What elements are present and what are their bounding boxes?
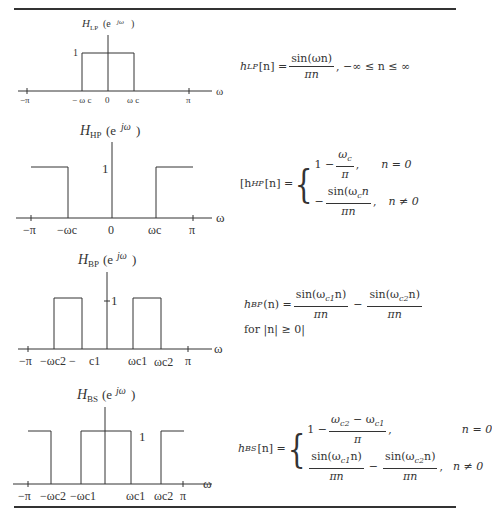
svg-text:(e: (e	[103, 252, 113, 267]
svg-text:−ωc: −ωc	[57, 223, 77, 237]
svg-text:(e: (e	[103, 18, 111, 30]
bandpass-axis-symbol: ω	[214, 341, 223, 356]
svg-text:−π: −π	[19, 354, 32, 368]
svg-text:π: π	[180, 489, 186, 503]
cases: 1 − ωc2 − ωc1π , n = 0 sin(ωc1n)πn − sin…	[307, 413, 492, 483]
highpass-axis-symbol: ω	[216, 210, 225, 225]
bandpass-height-label: 1	[111, 293, 118, 308]
svg-text:LP: LP	[90, 24, 98, 32]
bandstop-response-right	[161, 431, 184, 484]
bandpass-response-left	[54, 298, 82, 349]
svg-text:c1: c1	[89, 354, 100, 368]
cases: 1 − ωcπ , n = 0 − sin(ωcnπn , n ≠ 0	[315, 148, 419, 218]
highpass-height-label: 1	[102, 161, 109, 176]
svg-text:jω: jω	[115, 250, 127, 261]
svg-text:ωc1: ωc1	[126, 489, 145, 503]
svg-text:ωc2: ωc2	[154, 489, 173, 503]
svg-text:BP: BP	[88, 259, 99, 269]
svg-text:π: π	[186, 95, 191, 105]
svg-text:−ωc1: −ωc1	[70, 489, 96, 503]
lowpass-plot	[18, 35, 212, 94]
bandstop-height-label: 1	[139, 429, 146, 444]
bandstop-response-center	[81, 431, 131, 484]
svg-text:π: π	[185, 354, 191, 368]
highpass-response-right	[156, 167, 193, 218]
lowpass-impulse-response: h LP [n] = sin(ωn) πn , −∞ ≤ n ≤ ∞	[240, 52, 410, 81]
bandpass-response-right	[133, 298, 161, 349]
svg-text:ωc1: ωc1	[128, 354, 147, 368]
left-brace: {	[288, 428, 306, 468]
svg-text:ωc: ωc	[148, 223, 161, 237]
svg-text:−π: −π	[20, 95, 30, 105]
bandstop-axis-symbol: ω	[203, 476, 212, 491]
bandstop-response-left	[28, 431, 51, 484]
svg-text:− ω c: − ω c	[72, 95, 92, 105]
svg-text:ωc2: ωc2	[154, 355, 173, 369]
fraction: sin(ωn) πn	[289, 52, 334, 81]
svg-text:(e: (e	[102, 387, 112, 402]
lowpass-axis-symbol: ω	[216, 85, 223, 97]
svg-text:(e: (e	[106, 123, 116, 138]
svg-text:ω c: ω c	[127, 95, 139, 105]
bandpass-condition: for |n| ≥ 0|	[244, 323, 424, 336]
bandstop-plot	[13, 407, 212, 487]
highpass-response-left	[31, 167, 68, 218]
svg-text:): )	[136, 123, 140, 138]
svg-text:): )	[132, 252, 136, 267]
svg-text:−π: −π	[23, 223, 36, 237]
left-brace: {	[295, 163, 313, 203]
svg-text:BS: BS	[87, 394, 98, 404]
svg-text:π: π	[189, 223, 195, 237]
svg-text:): )	[131, 387, 135, 402]
svg-text:jω: jω	[114, 385, 126, 396]
svg-text:0: 0	[108, 223, 114, 237]
svg-text:−ωc2: −ωc2	[40, 489, 66, 503]
svg-text:−ωc2 −: −ωc2 −	[40, 354, 76, 368]
lowpass-height-label: 1	[73, 47, 78, 58]
bandstop-impulse-response: h BS [n] = { 1 − ωc2 − ωc1π , n = 0 sin(…	[238, 413, 492, 483]
svg-text:−π: −π	[18, 489, 31, 503]
svg-text:jω: jω	[119, 121, 131, 132]
svg-text:HP: HP	[90, 130, 102, 140]
bandpass-plot	[18, 272, 212, 352]
svg-text:): )	[131, 18, 134, 30]
highpass-plot	[16, 142, 212, 221]
svg-text:0: 0	[105, 95, 110, 105]
svg-text:jω: jω	[116, 18, 124, 26]
bandpass-impulse-response: h BP (n) = sin(ωc1n)πn − sin(ωc2n)πn for…	[244, 288, 424, 336]
highpass-impulse-response: [h HP [n] = { 1 − ωcπ , n = 0 − sin(ωcnπ…	[240, 148, 419, 218]
